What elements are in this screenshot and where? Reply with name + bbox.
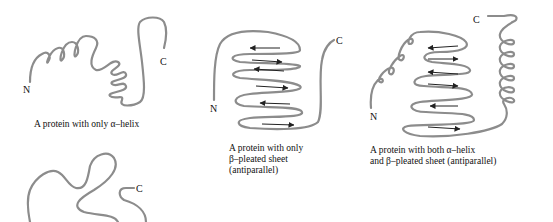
polypeptide-chain [214, 31, 334, 129]
c-terminus-label: C [336, 35, 343, 46]
c-terminus-label: C [473, 14, 480, 25]
beta-strand-arrow [428, 127, 460, 129]
polypeptide-chain [28, 154, 118, 222]
caption-alpha-helix: A protein with only α–helix [34, 119, 139, 130]
beta-strand-arrow [262, 124, 294, 125]
caption-line: A protein with only [229, 143, 303, 153]
alpha-beta-protein: N C [370, 14, 517, 136]
beta-sheet-protein: N C [210, 31, 343, 129]
polypeptide-chain [371, 15, 517, 136]
caption-alpha-beta: A protein with both α–helixand β–pleated… [370, 145, 496, 167]
polypeptide-chain [30, 18, 166, 106]
beta-strand-arrow [252, 60, 282, 62]
c-terminus-label: C [136, 183, 143, 194]
beta-strand-arrow [428, 46, 458, 48]
random-coil-protein: C [28, 154, 146, 222]
alpha-helix-protein: N C [23, 18, 167, 106]
n-terminus-label: N [23, 84, 30, 95]
caption-line: and β–pleated sheet (antiparallel) [370, 156, 496, 166]
caption-line: β–pleated sheet [229, 154, 288, 164]
caption-line: (antiparallel) [229, 165, 278, 175]
c-terminus-label: C [160, 56, 167, 67]
beta-strand-arrow [428, 72, 458, 74]
protein-structure-diagram: N C N C N C C [0, 0, 553, 222]
caption-line: A protein with only α–helix [34, 119, 139, 129]
caption-line: A protein with both α–helix [370, 145, 475, 155]
n-terminus-label: N [370, 111, 377, 122]
beta-strand-arrow [260, 103, 290, 104]
caption-beta-sheet: A protein with onlyβ–pleated sheet(antip… [229, 143, 303, 176]
n-terminus-label: N [210, 103, 217, 114]
beta-strand-arrow [256, 86, 288, 88]
